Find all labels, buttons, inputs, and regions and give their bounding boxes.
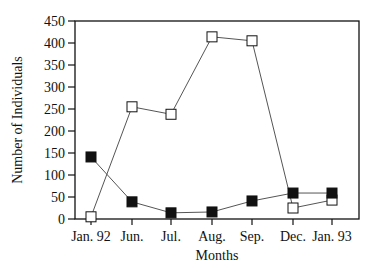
filled-square-marker bbox=[207, 207, 217, 217]
x-tick-label: Aug. bbox=[198, 229, 226, 244]
y-tick-label: 300 bbox=[44, 80, 65, 95]
y-tick-label: 50 bbox=[51, 190, 65, 205]
filled-square-marker bbox=[327, 188, 337, 198]
line-chart: 050100150200250300350400450 Jan. 92Jun.J… bbox=[0, 0, 377, 276]
plot-frame bbox=[75, 21, 359, 219]
filled-square-marker bbox=[247, 196, 257, 206]
filled-square-marker bbox=[166, 208, 176, 218]
y-tick-label: 150 bbox=[44, 146, 65, 161]
y-tick-label: 400 bbox=[44, 36, 65, 51]
open-square-marker bbox=[247, 36, 257, 46]
y-tick-label: 450 bbox=[44, 14, 65, 29]
filled-square-marker bbox=[288, 188, 298, 198]
y-tick-label: 350 bbox=[44, 58, 65, 73]
open-square-marker bbox=[86, 212, 96, 222]
series-filled-square bbox=[86, 152, 337, 218]
y-tick-label: 250 bbox=[44, 102, 65, 117]
open-square-marker bbox=[288, 203, 298, 213]
x-tick-label: Sep. bbox=[240, 229, 265, 244]
y-tick-label: 200 bbox=[44, 124, 65, 139]
open-square-marker bbox=[207, 32, 217, 42]
filled-square-marker bbox=[127, 197, 137, 207]
y-axis-title: Number of Individuals bbox=[10, 56, 25, 184]
x-tick-label: Jan. 92 bbox=[71, 229, 111, 244]
open-square-marker bbox=[166, 109, 176, 119]
series-layer bbox=[86, 32, 337, 222]
y-tick-label: 0 bbox=[58, 212, 65, 227]
filled-square-marker bbox=[86, 152, 96, 162]
open-square-marker bbox=[127, 102, 137, 112]
y-tick-label: 100 bbox=[44, 168, 65, 183]
x-tick-label: Jan. 93 bbox=[312, 229, 352, 244]
x-tick-label: Jun. bbox=[121, 229, 144, 244]
x-axis: Jan. 92Jun.Jul.Aug.Sep.Dec.Jan. 93 bbox=[71, 219, 352, 244]
x-tick-label: Dec. bbox=[280, 229, 306, 244]
x-axis-title: Months bbox=[196, 248, 239, 263]
x-tick-label: Jul. bbox=[161, 229, 181, 244]
y-axis: 050100150200250300350400450 bbox=[44, 14, 75, 227]
